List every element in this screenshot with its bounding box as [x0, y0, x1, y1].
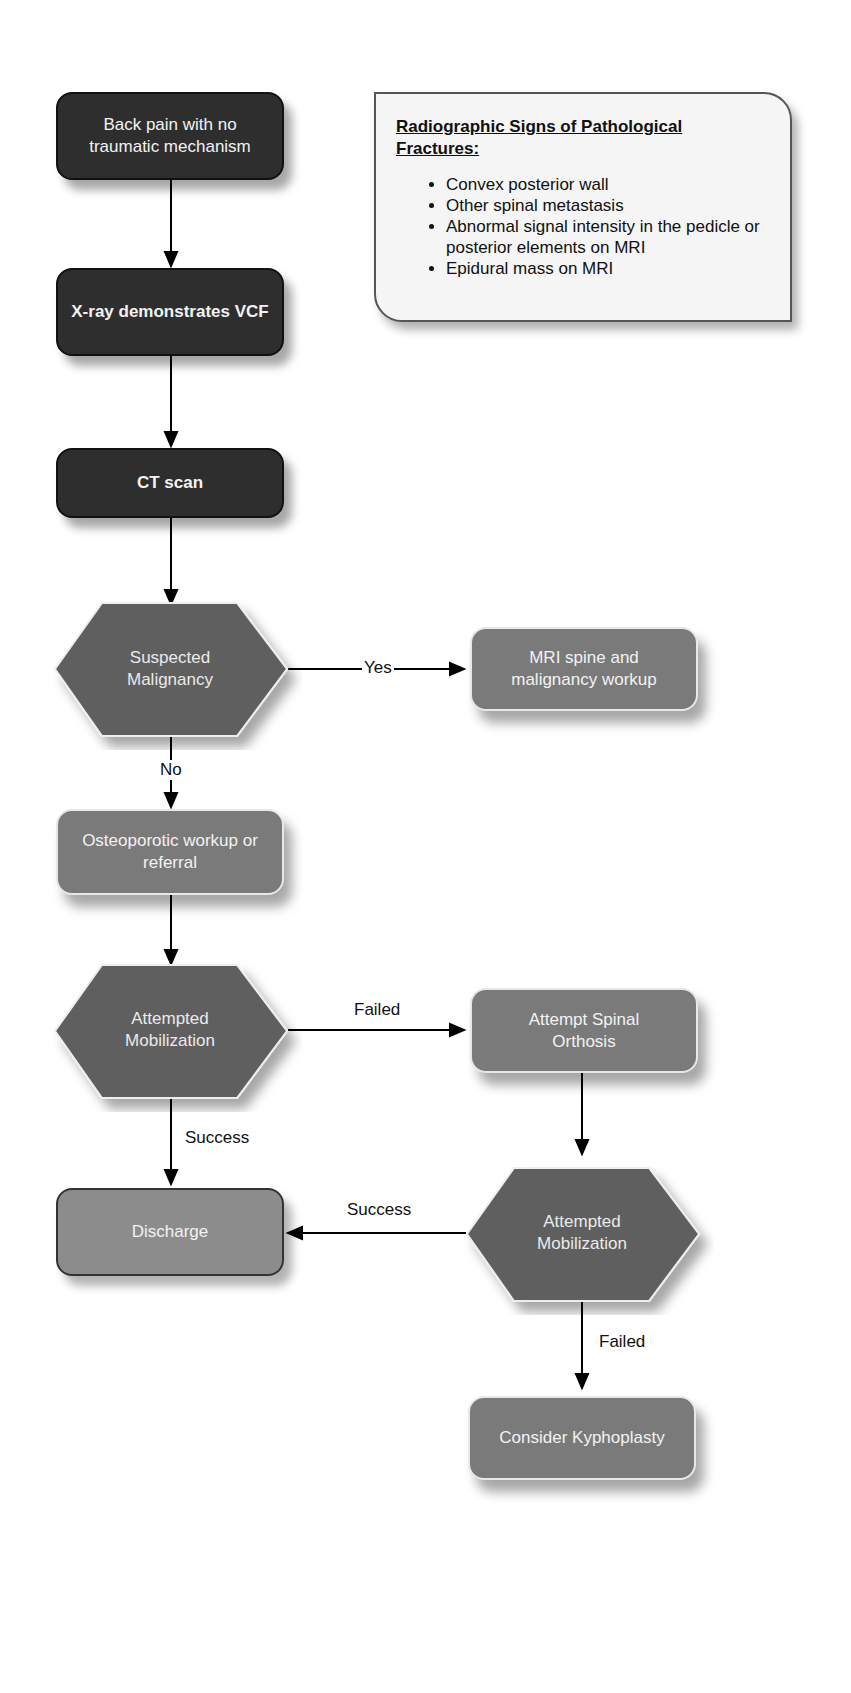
- node-xray-label: X-ray demonstrates VCF: [71, 301, 268, 323]
- edge-label-no: No: [158, 760, 184, 780]
- node-spinal-orthosis: Attempt Spinal Orthosis: [470, 988, 698, 1073]
- note-item: Other spinal metastasis: [446, 195, 770, 216]
- edge-label-success-2: Success: [345, 1200, 413, 1220]
- node-osteoporotic-workup: Osteoporotic workup or referral: [56, 809, 284, 895]
- radiographic-signs-note: Radiographic Signs of Pathological Fract…: [374, 92, 792, 322]
- node-kyphoplasty-label: Consider Kyphoplasty: [499, 1427, 664, 1449]
- node-orthosis-label: Attempt Spinal Orthosis: [509, 1009, 659, 1053]
- decision-attempted-mobilization-2-label: Attempted Mobilization: [482, 1204, 682, 1262]
- note-item: Abnormal signal intensity in the pedicle…: [446, 216, 770, 258]
- node-back-pain: Back pain with no traumatic mechanism: [56, 92, 284, 180]
- node-discharge-label: Discharge: [132, 1221, 209, 1243]
- edge-label-success-1: Success: [183, 1128, 251, 1148]
- node-ct-scan: CT scan: [56, 448, 284, 518]
- node-mri-workup: MRI spine and malignancy workup: [470, 627, 698, 711]
- decision-attempted-mobilization-1-label: Attempted Mobilization: [70, 1001, 270, 1059]
- node-osteoporotic-label: Osteoporotic workup or referral: [80, 830, 260, 874]
- node-consider-kyphoplasty: Consider Kyphoplasty: [468, 1396, 696, 1480]
- node-mri-label: MRI spine and malignancy workup: [499, 647, 669, 691]
- note-list: Convex posterior wall Other spinal metas…: [396, 174, 770, 279]
- edge-label-failed-1: Failed: [352, 1000, 402, 1020]
- edge-label-failed-2: Failed: [597, 1332, 647, 1352]
- node-back-pain-label: Back pain with no traumatic mechanism: [80, 114, 260, 158]
- note-item: Convex posterior wall: [446, 174, 770, 195]
- node-discharge: Discharge: [56, 1188, 284, 1276]
- note-item: Epidural mass on MRI: [446, 258, 770, 279]
- note-title: Radiographic Signs of Pathological Fract…: [396, 116, 696, 160]
- edge-label-yes: Yes: [362, 658, 394, 678]
- node-ct-label: CT scan: [137, 472, 203, 494]
- decision-suspected-malignancy-label: Suspected Malignancy: [70, 640, 270, 698]
- node-xray: X-ray demonstrates VCF: [56, 268, 284, 356]
